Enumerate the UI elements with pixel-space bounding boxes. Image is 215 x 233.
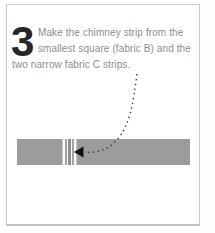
- instruction-line-3: two narrow fabric C strips.: [12, 57, 130, 73]
- instruction-line-1: Make the chimney strip from the: [38, 25, 191, 41]
- instruction-line-2: smallest square (fabric B) and the: [38, 41, 191, 57]
- instruction-text: Make the chimney strip from the smallest…: [38, 25, 191, 57]
- fabric-strip-illustration: [17, 139, 190, 165]
- instruction-page: { "step": { "number": "3", "instruction"…: [0, 0, 215, 233]
- chimney-strip-section: [62, 139, 79, 165]
